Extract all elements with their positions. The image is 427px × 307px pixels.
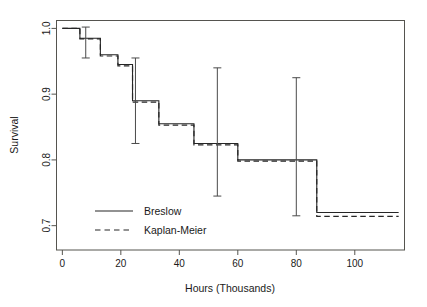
y-tick-label: 0.9 xyxy=(41,87,52,101)
y-axis-title: Survival xyxy=(8,116,20,153)
x-tick-label: 80 xyxy=(291,258,303,269)
x-tick-label: 60 xyxy=(232,258,244,269)
legend-label-kaplan-meier: Kaplan-Meier xyxy=(144,224,207,236)
survival-curve-chart: 0.70.80.91.0 020406080100 Survival Hours… xyxy=(0,0,427,307)
x-tick-label: 20 xyxy=(115,258,127,269)
y-tick-label: 1.0 xyxy=(41,21,52,35)
x-axis-title: Hours (Thousands) xyxy=(185,282,275,294)
y-tick-label: 0.8 xyxy=(41,153,52,167)
legend-label-breslow: Breslow xyxy=(144,205,182,217)
x-tick-label: 100 xyxy=(346,258,363,269)
x-tick-label: 0 xyxy=(60,258,66,269)
y-tick-label: 0.7 xyxy=(41,218,52,232)
x-tick-label: 40 xyxy=(174,258,186,269)
